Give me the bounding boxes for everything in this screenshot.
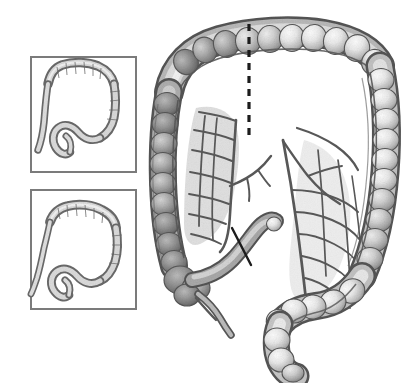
label-splenic-flexure: Splenic flexure [2,18,29,23]
colon-illustration-canvas: Transverse colon Hepatic flexure Splenic… [0,0,401,383]
label-transverse-colon: Transverse colon [2,6,33,11]
label-cecum: Cecum [2,36,15,41]
label-ascending-colon: Ascending colon [2,24,31,29]
label-dashed-marker: Proximal resection margin [2,72,48,77]
label-mesentery: Mesenteric vascular arcades [2,66,53,71]
label-rectum: Rectum [2,60,16,65]
label-sigmoid-colon: Sigmoid colon [2,54,27,59]
label-descending-colon: Descending colon [2,30,34,35]
inset-panel-bottom [31,190,136,309]
figure-root: Large intestine (colon) anatomical illus… [0,0,401,383]
label-ileum: Terminal ileum [2,48,28,53]
label-solid-marker: Distal ileal resection margin [2,78,51,83]
label-appendix: Vermiform appendix [2,42,38,47]
label-hepatic-flexure: Hepatic flexure [2,12,29,17]
